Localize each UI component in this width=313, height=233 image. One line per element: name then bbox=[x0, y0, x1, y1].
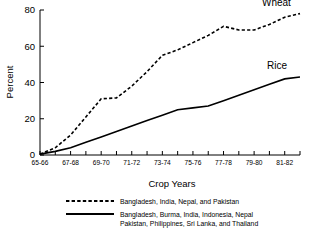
x-tick-label: 73-74 bbox=[154, 159, 171, 166]
legend: Bangladesh, India, Nepal, and Pakistan B… bbox=[66, 198, 258, 229]
series-label-rice: Rice bbox=[267, 60, 287, 71]
x-axis-tick-labels: 65-6667-6869-7071-7273-7475-7677-7879-80… bbox=[32, 159, 294, 166]
x-tick-label: 65-66 bbox=[32, 159, 49, 166]
series-annotations: Wheat Rice bbox=[262, 0, 291, 71]
x-tick-label: 67-68 bbox=[62, 159, 79, 166]
x-axis-ticks bbox=[40, 151, 300, 155]
x-tick-label: 81-82 bbox=[276, 159, 293, 166]
x-axis: 65-6667-6869-7071-7273-7475-7677-7879-80… bbox=[32, 151, 300, 189]
legend-label-rice-line2: Pakistan, Philippines, Sri Lanka, and Th… bbox=[120, 220, 258, 228]
x-tick-label: 75-76 bbox=[185, 159, 202, 166]
legend-label-wheat: Bangladesh, India, Nepal, and Pakistan bbox=[120, 198, 239, 206]
series-line-rice bbox=[40, 77, 300, 154]
plot-area bbox=[40, 14, 300, 154]
y-axis-title: Percent bbox=[4, 65, 15, 98]
legend-label-rice-line1: Bangladesh, Burma, India, Indonesia, Nep… bbox=[120, 211, 253, 219]
y-axis: 020406080 Percent bbox=[4, 4, 44, 160]
x-axis-title: Crop Years bbox=[148, 178, 195, 189]
x-tick-label: 77-78 bbox=[215, 159, 232, 166]
x-tick-label: 79-80 bbox=[246, 159, 263, 166]
series-line-wheat bbox=[40, 14, 300, 154]
x-tick-label: 69-70 bbox=[93, 159, 110, 166]
y-tick-label: 80 bbox=[24, 4, 35, 15]
y-axis-ticks bbox=[40, 10, 44, 155]
series-label-wheat: Wheat bbox=[262, 0, 291, 8]
line-chart: 020406080 Percent 65-6667-6869-7071-7273… bbox=[0, 0, 313, 233]
x-tick-label: 71-72 bbox=[123, 159, 140, 166]
y-tick-label: 20 bbox=[24, 113, 35, 124]
y-tick-label: 60 bbox=[24, 41, 35, 52]
chart-container: 020406080 Percent 65-6667-6869-7071-7273… bbox=[0, 0, 313, 233]
y-tick-label: 40 bbox=[24, 77, 35, 88]
y-axis-tick-labels: 020406080 bbox=[24, 4, 35, 160]
